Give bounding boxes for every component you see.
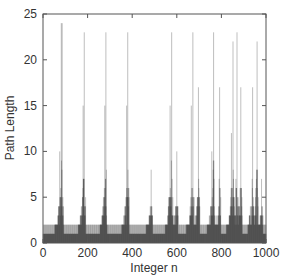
y-tick-label: 25 bbox=[24, 7, 38, 21]
y-axis-label: Path Length bbox=[3, 96, 17, 161]
y-tick-label: 5 bbox=[30, 190, 37, 204]
y-tick-label: 15 bbox=[24, 99, 38, 113]
x-tick-label: 1000 bbox=[253, 246, 280, 260]
x-tick-label: 0 bbox=[40, 246, 47, 260]
x-tick-label: 200 bbox=[78, 246, 98, 260]
x-axis: 02004006008001000 bbox=[40, 14, 280, 260]
path-length-chart: 0510152025 02004006008001000 Integer n P… bbox=[0, 0, 289, 278]
spike-series bbox=[43, 23, 266, 243]
x-tick-label: 800 bbox=[211, 246, 231, 260]
y-tick-label: 0 bbox=[30, 236, 37, 250]
x-tick-label: 600 bbox=[167, 246, 187, 260]
x-tick-label: 400 bbox=[122, 246, 142, 260]
y-tick-label: 20 bbox=[24, 53, 38, 67]
x-axis-label: Integer n bbox=[130, 261, 177, 275]
y-tick-label: 10 bbox=[24, 144, 38, 158]
